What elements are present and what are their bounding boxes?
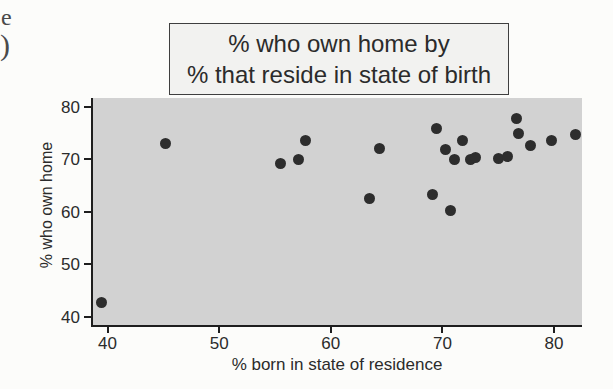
data-point — [300, 135, 311, 146]
data-point — [502, 151, 513, 162]
data-point — [160, 138, 171, 149]
data-point — [427, 189, 438, 200]
x-tick-mark — [441, 327, 443, 333]
x-tick-mark — [330, 327, 332, 333]
y-tick-label: 50 — [46, 255, 80, 275]
x-tick-mark — [218, 327, 220, 333]
y-tick-mark — [84, 316, 91, 318]
data-point — [525, 140, 536, 151]
y-tick-label: 60 — [46, 203, 80, 223]
plot-area — [91, 98, 582, 327]
data-point — [511, 113, 522, 124]
y-tick-mark — [84, 263, 91, 265]
y-tick-mark — [84, 158, 91, 160]
chart-title-line2: % that reside in state of birth — [187, 59, 491, 90]
y-tick-mark — [84, 106, 91, 108]
data-point — [570, 129, 581, 140]
data-point — [513, 128, 524, 139]
y-tick-label: 70 — [46, 150, 80, 170]
x-tick-label: 40 — [88, 334, 128, 354]
x-tick-label: 70 — [422, 334, 462, 354]
chart-title-box: % who own home by % that reside in state… — [169, 23, 509, 95]
scanned-page: e ) % who own home by % that reside in s… — [0, 0, 613, 389]
data-point — [449, 154, 460, 165]
data-point — [546, 135, 557, 146]
scatter-chart: % who own home by % that reside in state… — [0, 0, 613, 389]
data-point — [293, 154, 304, 165]
x-axis-label: % born in state of residence — [187, 355, 487, 375]
data-point — [364, 193, 375, 204]
y-tick-label: 40 — [46, 308, 80, 328]
data-point — [445, 205, 456, 216]
x-tick-mark — [107, 327, 109, 333]
data-point — [457, 135, 468, 146]
x-tick-label: 80 — [534, 334, 574, 354]
x-tick-label: 50 — [199, 334, 239, 354]
data-point — [275, 158, 286, 169]
y-tick-mark — [84, 211, 91, 213]
chart-title-line1: % who own home by — [228, 28, 449, 59]
data-point — [440, 144, 451, 155]
x-tick-mark — [553, 327, 555, 333]
data-point — [470, 152, 481, 163]
y-tick-label: 80 — [46, 98, 80, 118]
data-point — [374, 143, 385, 154]
data-point — [96, 297, 107, 308]
x-tick-label: 60 — [311, 334, 351, 354]
data-point — [431, 123, 442, 134]
